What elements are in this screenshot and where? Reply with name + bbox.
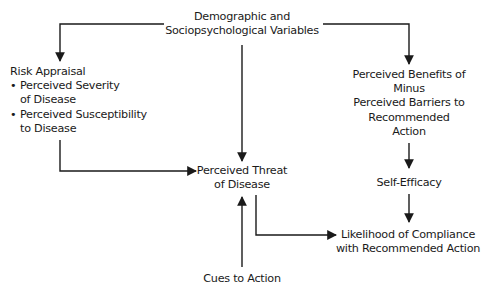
bullet-marker: •: [10, 108, 20, 122]
bullet-text-cont: to Disease: [10, 122, 147, 136]
bullet-susceptibility: •Perceived Susceptibility to Disease: [10, 108, 147, 136]
edge-risk-to-threat: [60, 140, 196, 171]
node-line: Perceived Barriers to: [353, 96, 466, 110]
node-line: Perceived Benefits of: [353, 68, 466, 82]
node-self-efficacy: Self-Efficacy: [376, 176, 441, 190]
bullet-text: Perceived Severity: [20, 79, 120, 92]
edge-demographic-to-benefits: [323, 24, 409, 64]
node-line: Likelihood of Compliance: [336, 228, 480, 242]
node-likelihood-of-compliance: Likelihood of Compliance with Recommende…: [336, 228, 480, 256]
node-line: Perceived Threat: [197, 164, 287, 178]
node-demographic-variables: Demographic and Sociopsychological Varia…: [165, 10, 319, 38]
node-line: of Disease: [197, 178, 287, 192]
node-line: Recommended: [353, 111, 466, 125]
bullet-text-cont: of Disease: [10, 93, 147, 107]
health-belief-model-diagram: Demographic and Sociopsychological Varia…: [0, 0, 487, 292]
node-perceived-threat: Perceived Threat of Disease: [197, 164, 287, 192]
risk-appraisal-heading: Risk Appraisal: [10, 65, 147, 79]
node-line: Minus: [353, 82, 466, 96]
edge-threat-to-likelihood: [256, 195, 336, 235]
node-line: Sociopsychological Variables: [165, 24, 319, 38]
node-cues-to-action: Cues to Action: [203, 272, 281, 286]
node-line: Self-Efficacy: [376, 176, 441, 190]
bullet-marker: •: [10, 79, 20, 93]
node-risk-appraisal: Risk Appraisal •Perceived Severity of Di…: [10, 65, 147, 136]
node-line: Cues to Action: [203, 272, 281, 286]
node-line: Action: [353, 125, 466, 139]
node-line: Demographic and: [165, 10, 319, 24]
bullet-text: Perceived Susceptibility: [20, 108, 147, 121]
edge-demographic-to-risk: [60, 24, 164, 61]
node-line: with Recommended Action: [336, 242, 480, 256]
node-benefits-minus-barriers: Perceived Benefits of Minus Perceived Ba…: [353, 68, 466, 139]
bullet-severity: •Perceived Severity of Disease: [10, 79, 147, 107]
